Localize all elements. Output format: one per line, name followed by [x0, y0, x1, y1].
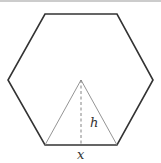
height-label: h [90, 115, 98, 130]
hexagon-outline [8, 14, 153, 145]
base-label: x [77, 147, 85, 162]
hexagon-diagram: h x [0, 0, 161, 163]
